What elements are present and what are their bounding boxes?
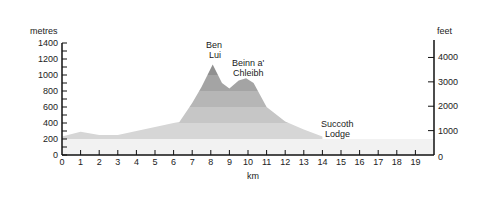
x-tick-label: 17 [373, 157, 383, 167]
y-axis-left-label: metres [30, 26, 58, 36]
y-left-tick-label: 800 [43, 86, 58, 96]
y-left-tick-label: 600 [43, 102, 58, 112]
y-right-tick-label: 4000 [438, 52, 458, 62]
annotation-ben-lui-line2: Lui [209, 50, 221, 60]
x-tick-label: 2 [97, 157, 102, 167]
y-right-tick-label: 1000 [438, 126, 458, 136]
x-tick-label: 12 [280, 157, 290, 167]
x-tick-label: 14 [317, 157, 327, 167]
x-tick-label: 8 [208, 157, 213, 167]
y-right-tick-label: 2000 [438, 101, 458, 111]
y-left-tick-label: 1400 [38, 38, 58, 48]
annotation-succoth-line2: Lodge [325, 129, 350, 139]
y-left-tick-label: 1200 [38, 54, 58, 64]
annotation-ben-lui-line1: Ben [206, 40, 222, 50]
y-left-tick-label: 400 [43, 118, 58, 128]
x-tick-label: 16 [355, 157, 365, 167]
annotation-beinn-line1: Beinn a' [232, 58, 265, 68]
y-left-tick-label: 200 [43, 134, 58, 144]
x-tick-label: 3 [115, 157, 120, 167]
x-tick-label: 11 [262, 157, 271, 167]
elevation-band [62, 91, 442, 107]
x-tick-label: 13 [299, 157, 309, 167]
y-left-tick-label: 1000 [38, 70, 58, 80]
x-tick-label: 6 [171, 157, 176, 167]
y-left-tick-label: 0 [53, 150, 58, 160]
x-axis-label: km [247, 171, 259, 181]
x-tick-label: 10 [243, 157, 253, 167]
elevation-profile-chart: 0200400600800100012001400010002000300040… [0, 0, 485, 216]
x-tick-label: 4 [134, 157, 139, 167]
y-axis-right-label: feet [437, 26, 453, 36]
annotation-beinn-line2: Chleibh [233, 68, 264, 78]
elevation-band [62, 43, 442, 59]
x-tick-label: 9 [227, 157, 232, 167]
y-right-tick-label: 0 [438, 152, 443, 162]
x-tick-label: 0 [59, 157, 64, 167]
x-tick-label: 5 [152, 157, 157, 167]
x-tick-label: 7 [190, 157, 195, 167]
y-right-tick-label: 3000 [438, 77, 458, 87]
annotation-succoth-line1: Succoth [321, 119, 354, 129]
x-tick-label: 1 [78, 157, 83, 167]
elevation-band [62, 107, 442, 123]
x-tick-label: 19 [410, 157, 420, 167]
elevation-band [62, 123, 442, 139]
x-tick-label: 18 [392, 157, 402, 167]
x-tick-label: 15 [336, 157, 346, 167]
